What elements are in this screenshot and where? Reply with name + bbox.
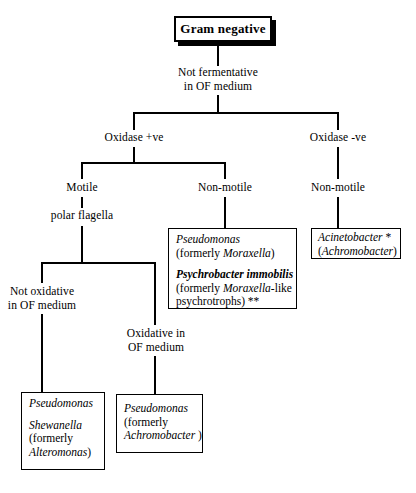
label-not-oxidative-line2: in OF medium (8, 299, 76, 313)
taxon-pseudomonas-3: Pseudomonas (124, 402, 188, 414)
label-oxidative: Oxidative in OF medium (127, 327, 185, 354)
taxon-pseudomonas-2: Pseudomonas (29, 397, 93, 409)
flowchart-canvas: Gram negative Not fermentative in OF med… (0, 0, 416, 493)
taxon-achromobacter-2: Achromobacter (124, 429, 195, 441)
text-formerly-1: (formerly (176, 247, 223, 259)
connector-non-motile-left-drop (224, 162, 226, 179)
label-oxidase-positive-text: Oxidase +ve (105, 131, 164, 143)
label-oxidative-line1: Oxidative in (127, 327, 185, 341)
box-line-formerly-moraxella-like: (formerly Moraxella-like (176, 282, 290, 296)
box-acinetobacter[interactable]: Acinetobacter * (Achromobacter) (311, 228, 401, 259)
label-oxidative-line2: OF medium (127, 341, 185, 355)
box-line-psychrobacter: Psychrobacter immobilis (176, 268, 290, 282)
label-motile-text: Motile (66, 181, 97, 193)
taxon-achromobacter-1: Achromobacter (322, 245, 393, 257)
label-not-fermentative-line2: in OF medium (178, 80, 258, 94)
box-line-psychrotrophs: psychrotrophs) ** (176, 295, 290, 309)
label-not-fermentative-line1: Not fermentative (178, 66, 258, 80)
box-line-acinetobacter: Acinetobacter * (318, 231, 395, 245)
taxon-alteromonas: Alteromonas (29, 446, 87, 458)
connector-root-stem (217, 42, 219, 66)
root-node-gram-negative[interactable]: Gram negative (174, 16, 272, 42)
root-node-label: Gram negative (180, 21, 265, 37)
connector-oxidative-stem (154, 356, 156, 394)
label-not-oxidative: Not oxidative in OF medium (8, 285, 76, 312)
label-not-oxidative-line1: Not oxidative (8, 285, 76, 299)
text-formerly-3: (formerly (29, 432, 73, 444)
label-non-motile-right: Non-motile (311, 181, 365, 195)
connector-oxidative-drop (154, 262, 156, 325)
text-asterisk: * (383, 231, 392, 243)
text-psychrotrophs: psychrotrophs) ** (176, 295, 259, 307)
label-oxidase-positive: Oxidase +ve (105, 131, 164, 145)
box-pseudomonas-psychrobacter[interactable]: Pseudomonas (formerly Moraxella) Psychro… (168, 228, 297, 309)
label-oxidase-negative-text: Oxidase -ve (310, 131, 366, 143)
taxon-psychrobacter-immobilis: Psychrobacter immobilis (176, 268, 293, 280)
text-paren-close-2: ) (87, 446, 91, 458)
box-line-pseudomonas-2: Pseudomonas (29, 397, 98, 411)
box-line-formerly-4: (formerly (124, 416, 197, 430)
label-non-motile-left-text: Non-motile (198, 181, 252, 193)
taxon-moraxella-1: Moraxella (223, 247, 271, 259)
text-formerly-4: (formerly (124, 416, 168, 428)
text-paren-1: ) (271, 247, 275, 259)
box-line-spacer (176, 260, 290, 268)
box-pseudomonas-shewanella[interactable]: Pseudomonas Shewanella (formerly Alterom… (21, 392, 105, 470)
box-pseudomonas-achromobacter[interactable]: Pseudomonas (formerly Achromobacter ) (116, 394, 203, 453)
connector-motile-drop (81, 162, 83, 179)
connector-main-split-right-drop (337, 112, 339, 130)
box-line-formerly-moraxella: (formerly Moraxella) (176, 247, 290, 261)
connector-not-fermentative-stem (217, 95, 219, 113)
label-polar-flagella-text: polar flagella (51, 209, 113, 221)
label-not-fermentative: Not fermentative in OF medium (178, 66, 258, 93)
label-oxidase-negative: Oxidase -ve (310, 131, 366, 145)
connector-flagella-stem (81, 226, 83, 263)
connector-main-split-left-drop (133, 112, 135, 130)
text-paren-close-3: ) (195, 429, 202, 441)
text-paren-close: ) (393, 245, 397, 257)
box-line-pseudomonas-3: Pseudomonas (124, 402, 197, 416)
text-like-suffix: -like (271, 282, 292, 294)
box-line-shewanella: Shewanella (29, 419, 98, 433)
box-line-spacer-2 (29, 411, 98, 419)
connector-flagella-split-bar (41, 262, 156, 264)
taxon-moraxella-2: Moraxella (223, 282, 271, 294)
taxon-shewanella: Shewanella (29, 419, 82, 431)
label-motile: Motile (66, 181, 97, 195)
connector-oxidase-positive-stem (133, 147, 135, 163)
label-non-motile-right-text: Non-motile (311, 181, 365, 193)
text-formerly-2: (formerly (176, 282, 223, 294)
box-line-achromobacter-alt: (Achromobacter) (318, 245, 395, 259)
connector-oxidase-negative-stem (337, 147, 339, 179)
connector-oxidase-positive-split-bar (81, 162, 226, 164)
connector-non-motile-left-stem (224, 197, 226, 228)
box-line-pseudomonas: Pseudomonas (176, 233, 290, 247)
connector-motile-to-flagella (81, 197, 83, 208)
connector-main-split-bar (133, 112, 339, 114)
label-non-motile-left: Non-motile (198, 181, 252, 195)
taxon-pseudomonas: Pseudomonas (176, 233, 240, 245)
connector-not-oxidative-stem (41, 314, 43, 392)
connector-non-motile-right-stem (337, 197, 339, 228)
label-polar-flagella: polar flagella (51, 209, 113, 223)
box-line-formerly-3: (formerly (29, 432, 98, 446)
box-line-achromobacter-2: Achromobacter ) (124, 429, 197, 443)
connector-not-oxidative-drop (41, 262, 43, 283)
taxon-acinetobacter: Acinetobacter (318, 231, 383, 243)
box-line-alteromonas: Alteromonas) (29, 446, 98, 460)
